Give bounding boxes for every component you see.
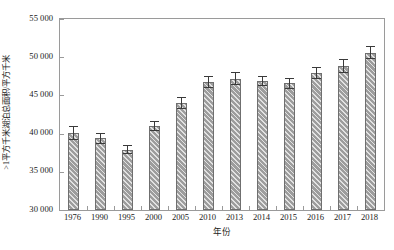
error-bar-cap-top [69, 126, 78, 127]
x-axis-tick-label: 2017 [334, 213, 351, 222]
error-bar-cap-bottom [366, 58, 375, 59]
y-axis-tick-mark [60, 210, 64, 211]
x-axis-tick-mark [195, 206, 196, 210]
error-bar-cap-top [258, 76, 267, 77]
x-axis-tick-label: 1976 [64, 213, 81, 222]
x-axis-tick-label: 2013 [226, 213, 243, 222]
error-bar-cap-top [204, 76, 213, 77]
error-bar-cap-bottom [339, 72, 348, 73]
error-bar-stem [343, 59, 344, 73]
error-bar [257, 76, 268, 87]
x-axis-title: 年份 [59, 228, 385, 237]
y-axis-tick-labels: 30 00035 00040 00045 00050 00055 000 [14, 0, 56, 250]
error-bar-cap-top [312, 67, 321, 68]
bar [365, 53, 376, 210]
bar [284, 83, 295, 210]
bar [203, 82, 214, 210]
error-bar-cap-bottom [258, 85, 267, 86]
error-bar [68, 126, 79, 140]
x-axis-tick-mark [330, 206, 331, 210]
error-bar [176, 97, 187, 109]
x-axis-tick-mark [249, 206, 250, 210]
bar [176, 103, 187, 210]
error-bar [284, 78, 295, 89]
x-axis-tick-label: 1990 [91, 213, 108, 222]
error-bar-cap-top [339, 59, 348, 60]
bar [149, 126, 160, 210]
y-axis-tick-mark [60, 134, 64, 135]
error-bar-cap-bottom [312, 78, 321, 79]
x-axis-tick-labels: 1976199019952000200520102013201420152016… [59, 213, 385, 227]
bar [95, 138, 106, 210]
y-axis-tick-mark [60, 57, 64, 58]
error-bar [95, 133, 106, 144]
x-axis-tick-mark [168, 206, 169, 210]
x-axis-tick-label: 2016 [307, 213, 324, 222]
error-bar-cap-bottom [69, 139, 78, 140]
error-bar-cap-top [150, 121, 159, 122]
y-axis-tick-mark [60, 95, 64, 96]
y-axis-tick-label: 40 000 [29, 128, 53, 137]
error-bar-cap-bottom [123, 153, 132, 154]
bar [122, 150, 133, 210]
error-bar-cap-bottom [231, 84, 240, 85]
error-bar [338, 59, 349, 73]
x-axis-tick-label: 2014 [253, 213, 270, 222]
error-bar-cap-top [285, 78, 294, 79]
y-axis-tick-label: 30 000 [29, 205, 53, 214]
error-bar-cap-top [96, 133, 105, 134]
x-axis-tick-mark [222, 206, 223, 210]
y-axis-tick-mark [60, 172, 64, 173]
bar [338, 66, 349, 210]
x-axis-tick-mark [114, 206, 115, 210]
error-bar-cap-top [123, 145, 132, 146]
error-bar-cap-bottom [150, 130, 159, 131]
y-axis-tick-label: 55 000 [29, 14, 53, 23]
x-axis-tick-label: 2005 [172, 213, 189, 222]
bar [68, 133, 79, 210]
error-bar-cap-top [231, 72, 240, 73]
x-axis-tick-mark [141, 206, 142, 210]
x-axis-tick-label: 2010 [199, 213, 216, 222]
x-axis-tick-mark [276, 206, 277, 210]
x-axis-tick-label: 1995 [118, 213, 135, 222]
error-bar-cap-top [366, 46, 375, 47]
error-bar-stem [370, 46, 371, 60]
error-bar-cap-bottom [177, 108, 186, 109]
error-bar [203, 76, 214, 88]
error-bar-cap-bottom [204, 87, 213, 88]
error-bar-cap-top [177, 97, 186, 98]
bar [230, 79, 241, 210]
error-bar [311, 67, 322, 79]
y-axis-tick-label: 50 000 [29, 52, 53, 61]
error-bar [122, 145, 133, 154]
y-axis-tick-label: 45 000 [29, 90, 53, 99]
error-bar [365, 46, 376, 60]
bar [311, 73, 322, 210]
x-axis-tick-mark [357, 206, 358, 210]
plot-area [59, 18, 385, 211]
error-bar [149, 121, 160, 132]
x-axis-tick-label: 2000 [145, 213, 162, 222]
error-bar [230, 72, 241, 84]
error-bar-cap-bottom [96, 143, 105, 144]
x-axis-tick-label: 2018 [361, 213, 378, 222]
chart-figure: >1平方千米湖泊总面积/平方千米 30 00035 00040 00045 00… [0, 0, 394, 250]
y-axis-tick-mark [60, 19, 64, 20]
error-bar-cap-bottom [285, 88, 294, 89]
y-axis-tick-label: 35 000 [29, 166, 53, 175]
error-bar-stem [73, 126, 74, 140]
x-axis-tick-label: 2015 [280, 213, 297, 222]
y-axis-title-text: >1平方千米湖泊总面积/平方千米 [4, 55, 12, 170]
bar [257, 81, 268, 210]
x-axis-tick-mark [303, 206, 304, 210]
x-axis-tick-mark [87, 206, 88, 210]
